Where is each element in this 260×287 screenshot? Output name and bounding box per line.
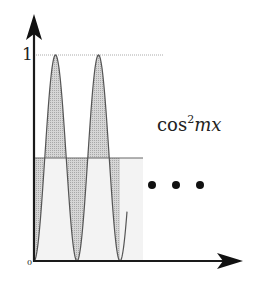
- ellipsis-dot-1: [148, 181, 156, 189]
- ellipsis-dot-3: [196, 181, 204, 189]
- diagram-canvas: 1 0 cos2mx: [0, 0, 260, 287]
- function-label: cos2mx: [157, 113, 221, 135]
- y-tick-one: 1: [22, 44, 33, 64]
- ellipsis-dot-2: [172, 181, 180, 189]
- y-tick-zero: 0: [27, 258, 32, 267]
- average-region: [34, 158, 143, 261]
